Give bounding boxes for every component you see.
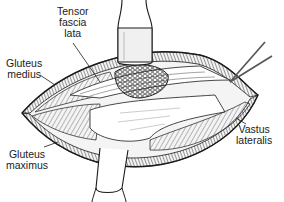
- upper-retractor: [118, 0, 152, 65]
- anatomy-drawing: [0, 0, 284, 202]
- label-gluteus-medius: Gluteus medius: [6, 58, 42, 80]
- surgical-illustration: Tensor fascia lata Gluteus medius Gluteu…: [0, 0, 284, 202]
- label-tensor-fascia-lata: Tensor fascia lata: [57, 6, 89, 39]
- label-vastus-lateralis: Vastus lateralis: [236, 124, 272, 146]
- forceps: [230, 42, 272, 82]
- label-gluteus-maximus: Gluteus maximus: [6, 149, 48, 171]
- label-line: lateralis: [236, 135, 272, 146]
- label-line: lata: [57, 28, 89, 39]
- label-line: maximus: [6, 160, 48, 171]
- label-line: medius: [6, 69, 42, 80]
